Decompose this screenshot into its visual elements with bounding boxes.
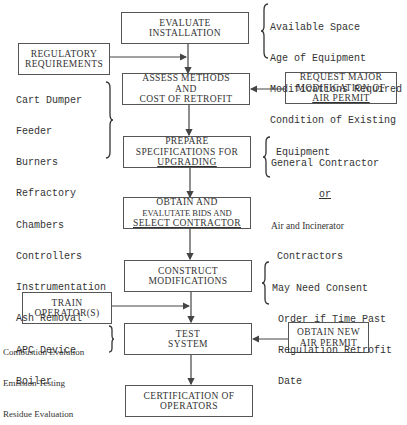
box-label: AND (175, 84, 197, 95)
box-label: TEST (176, 329, 200, 340)
certification-box: CERTIFICATION OF OPERATORS (125, 385, 253, 417)
box-label: EVALUATE (159, 18, 211, 29)
prepare-specifications-box: PREPARE SPECIFICATIONS FOR UPGRADING (123, 136, 251, 168)
box-label: INSTALLATION (149, 28, 221, 39)
test-system-box: TEST SYSTEM (124, 323, 252, 355)
obtain-bids-box: OBTAIN AND EVALUTATE BIDS AND SELECT CON… (123, 197, 251, 229)
train-annotation: Combustion Evalution Emission Testing Re… (3, 327, 84, 425)
box-label: REQUIREMENTS (25, 59, 103, 70)
box-label: COST OF RETROFIT (140, 94, 233, 105)
construct-modifications-box: CONSTRUCT MODIFICATIONS (124, 260, 252, 292)
box-label: SPECIFICATIONS FOR (136, 147, 239, 158)
evaluate-installation-box: EVALUATE INSTALLATION (121, 12, 249, 44)
box-label: PREPARE (165, 136, 209, 147)
box-label: SYSTEM (168, 339, 208, 350)
box-label: SELECT CONTRACTOR (133, 218, 241, 229)
prepare-annotation: General Contractor or Air and Incinerato… (271, 138, 379, 273)
box-label: REGULATORY (31, 49, 98, 60)
box-label: OBTAIN AND (156, 197, 218, 208)
box-label: CONSTRUCT (158, 266, 218, 277)
regulatory-requirements-box: REGULATORY REQUIREMENTS (18, 43, 110, 75)
box-label: MODIFICATIONS (148, 276, 227, 287)
box-label: CERTIFICATION OF (143, 391, 234, 402)
box-label: UPGRADING (157, 157, 217, 168)
box-label: EVALUTATE BIDS AND (142, 208, 231, 219)
construct-annotation: May Need Consent Order if Time Past Regu… (272, 263, 392, 398)
assess-methods-box: ASSESS METHODS AND COST OF RETROFIT (122, 73, 250, 105)
box-label: ASSESS METHODS (142, 73, 230, 84)
box-label: OPERATORS (160, 401, 218, 412)
